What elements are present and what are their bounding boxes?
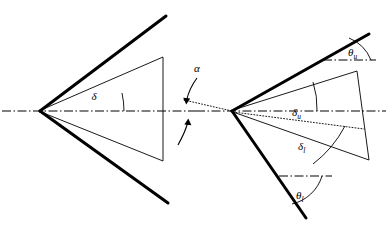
wedge-diagram-svg: δ α (0, 0, 388, 237)
left-wedge-lower-surface (40, 111, 168, 203)
alpha-lower-arrow (178, 123, 188, 146)
right-delta-u-arc (313, 82, 317, 111)
left-lower-shock-line (41, 112, 163, 161)
theta-u-label: θu (348, 46, 357, 61)
right-shock-closing-line (357, 71, 369, 160)
theta-u-subscript: u (353, 52, 357, 61)
right-wedge-lower-surface (232, 111, 306, 218)
alpha-label: α (194, 62, 200, 74)
left-delta-angle-arc (122, 93, 124, 111)
alpha-upper-arrowhead (183, 98, 190, 105)
right-delta-u-label: δu (292, 106, 301, 121)
left-delta-label: δ (91, 90, 97, 102)
theta-l-subscript: l (301, 195, 303, 204)
technical-diagram: δ α (0, 0, 388, 237)
right-delta-l-arc (313, 126, 345, 164)
alpha-lower-arrowhead (184, 119, 191, 126)
right-lower-shock-line (233, 112, 369, 160)
right-delta-l-label: δl (298, 140, 305, 155)
right-delta-l-subscript: l (303, 146, 305, 155)
right-delta-u-subscript: u (297, 112, 301, 121)
chord-dotted-line-left-extension (184, 100, 232, 111)
alpha-upper-arrow (187, 78, 198, 101)
